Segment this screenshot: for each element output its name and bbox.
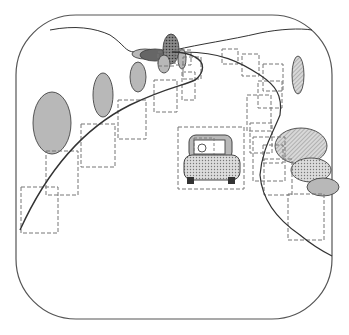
box-4 xyxy=(118,100,146,139)
car-body xyxy=(184,155,240,180)
tree-left-large xyxy=(33,92,71,154)
vehicle xyxy=(184,135,240,184)
tree-left-mid xyxy=(93,73,113,117)
box-17 xyxy=(264,159,292,195)
horizon-path xyxy=(50,28,312,52)
box-5 xyxy=(154,80,177,112)
box-9 xyxy=(182,72,195,100)
car-wheel-left xyxy=(187,177,194,184)
box-2 xyxy=(46,151,78,195)
box-3 xyxy=(81,124,115,167)
detection-boxes xyxy=(21,49,324,240)
tree-far-small xyxy=(158,55,170,73)
horizon-line xyxy=(50,28,312,52)
car-wheel-right xyxy=(228,177,235,184)
tree-left-small xyxy=(130,62,146,92)
car-light-icon xyxy=(198,144,206,152)
road-scene-diagram xyxy=(0,0,349,335)
tree-right-narrow xyxy=(292,56,304,94)
box-19 xyxy=(288,194,324,240)
bush-right-small xyxy=(307,178,339,196)
scene-canvas xyxy=(0,0,349,335)
box-12 xyxy=(263,64,283,91)
box-14 xyxy=(247,95,271,131)
